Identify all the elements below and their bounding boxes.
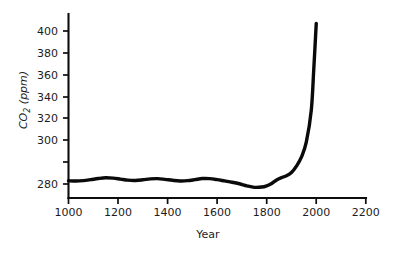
co2-line-chart: 400 380 360 340 320 300 280 1000 1200 14…	[0, 0, 396, 253]
y-axis-title-prefix: CO	[17, 112, 30, 129]
x-tick-label-1200: 1200	[104, 206, 132, 219]
y-tick-label-320: 320	[37, 112, 58, 125]
x-tick-label-2200: 2200	[352, 206, 380, 219]
x-tick-label-1800: 1800	[253, 206, 281, 219]
y-axis-title-suffix: (ppm)	[17, 71, 30, 108]
y-tick-label-300: 300	[37, 134, 58, 147]
chart-figure: 400 380 360 340 320 300 280 1000 1200 14…	[0, 0, 396, 253]
x-tick-label-1600: 1600	[203, 206, 231, 219]
y-tick-label-400: 400	[37, 25, 58, 38]
x-axis-title: Year	[195, 228, 220, 241]
y-tick-label-340: 340	[37, 91, 58, 104]
x-tick-label-1000: 1000	[55, 206, 83, 219]
x-tick-label-2000: 2000	[302, 206, 330, 219]
y-tick-label-280: 280	[37, 178, 58, 191]
y-tick-label-380: 380	[37, 47, 58, 60]
y-axis-title: CO2 (ppm)	[17, 71, 32, 129]
y-tick-label-360: 360	[37, 69, 58, 82]
svg-text:CO2 (ppm): CO2 (ppm)	[17, 71, 32, 129]
x-tick-label-1400: 1400	[154, 206, 182, 219]
